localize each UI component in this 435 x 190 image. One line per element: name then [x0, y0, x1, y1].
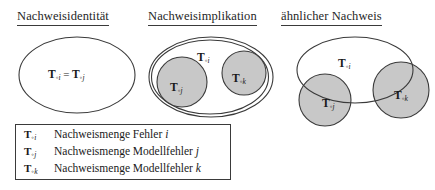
- diagram-canvas: Nachweisidentität Nachweisimplikation äh…: [0, 0, 435, 190]
- panel3-label-Toi-base: T: [338, 57, 346, 69]
- panel1-label-T1-sub: ◦i: [56, 73, 61, 82]
- panel3-label-Toj-sub: ◦j: [330, 102, 335, 111]
- panel3-label-Tok: T◦k: [394, 90, 408, 102]
- panel2-label-Toj: T◦j: [170, 82, 183, 94]
- panel2-label-Toj-base: T: [170, 81, 178, 93]
- legend-row: T◦i Nachweismenge Fehler i: [24, 128, 168, 145]
- panel1-label-T2-sub: ◦j: [80, 73, 85, 82]
- legend-symbol-Toi: T◦i: [24, 128, 54, 142]
- panel3-label-Toj: T◦j: [322, 98, 335, 110]
- legend-box: T◦i Nachweismenge Fehler i T◦j Nachweism…: [15, 124, 231, 180]
- panel1-label-T1-base: T: [48, 68, 56, 80]
- legend-row: T◦k Nachweismenge Modellfehler k: [24, 162, 201, 179]
- panel2-label-Toi-base: T: [197, 51, 205, 63]
- legend-description-Toi: Nachweismenge Fehler i: [54, 128, 168, 140]
- panel3-label-Toi-sub: ◦i: [346, 62, 351, 71]
- panel3-label-Tok-sub: ◦k: [402, 94, 408, 103]
- panel3-label-Tok-base: T: [394, 89, 402, 101]
- legend-description-Toj: Nachweismenge Modellfehler j: [54, 145, 199, 157]
- panel3-label-Toi: T◦i: [338, 58, 351, 70]
- panel1-label-equality: T◦i=T◦j: [48, 69, 85, 81]
- legend-symbol-Toj: T◦j: [24, 145, 54, 159]
- legend-row: T◦j Nachweismenge Modellfehler j: [24, 145, 199, 162]
- panel2-label-Tok-base: T: [232, 72, 240, 84]
- panel1-label-operator: =: [61, 68, 72, 80]
- panel1-label-T2-base: T: [72, 68, 80, 80]
- legend-description-Tok: Nachweismenge Modellfehler k: [54, 162, 201, 174]
- legend-symbol-Tok: T◦k: [24, 162, 54, 176]
- panel2-label-Toi-sub: ◦i: [205, 56, 210, 65]
- panel3-label-Toj-base: T: [322, 97, 330, 109]
- panel2-label-Toj-sub: ◦j: [178, 86, 183, 95]
- panel2-label-Toi: T◦i: [197, 52, 210, 64]
- panel2-label-Tok: T◦k: [232, 73, 246, 85]
- panel2-label-Tok-sub: ◦k: [240, 77, 246, 86]
